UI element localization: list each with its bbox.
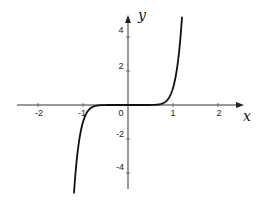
y-tick-label: 2 xyxy=(118,61,123,71)
x-axis-label: x xyxy=(243,108,251,124)
y-tick-label: -4 xyxy=(116,162,124,172)
chart-canvas: -2 -1 0 1 2 4 2 -2 -4 x y xyxy=(0,0,266,204)
y-tick-label: -2 xyxy=(116,129,124,139)
x-tick-label: 1 xyxy=(170,108,175,118)
y-axis-arrow-icon xyxy=(125,15,131,23)
y-axis-label: y xyxy=(137,7,147,23)
origin-label: 0 xyxy=(118,108,123,118)
x-tick-label: 2 xyxy=(216,108,221,118)
y-tick-label: 4 xyxy=(118,25,123,35)
x-tick-label: -2 xyxy=(35,108,43,118)
